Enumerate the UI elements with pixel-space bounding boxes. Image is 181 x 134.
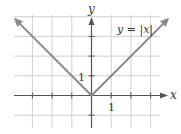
function-label: y = |x|	[116, 23, 153, 37]
y-axis-arrow-icon	[89, 17, 95, 25]
y-axis-label: y	[87, 2, 95, 16]
x-axis-label: x	[170, 88, 177, 102]
absolute-value-graph: y x y = |x| 1 1	[0, 0, 181, 134]
x-tick-label-1: 1	[108, 101, 115, 114]
x-axis-arrow-icon	[160, 93, 168, 99]
y-tick-label-1: 1	[78, 71, 85, 84]
